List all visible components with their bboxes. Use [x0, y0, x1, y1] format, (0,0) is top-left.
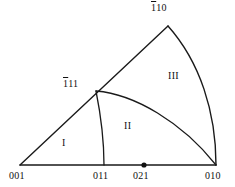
pole-label-1bar11-rest: 11 [68, 78, 78, 89]
data-point-021 [141, 162, 146, 167]
pole-label-1bar11: 111 [63, 79, 78, 89]
pole-label-1bar10-rest: 10 [156, 2, 166, 13]
axis-label-001: 001 [9, 171, 25, 181]
region-label-two: II [124, 121, 131, 131]
region-label-one: I [62, 138, 66, 148]
axis-label-010: 010 [205, 171, 221, 181]
region-label-three: III [168, 71, 179, 81]
stereographic-triangle-figure: 110 111 I II III 001 011 021 010 [0, 0, 235, 187]
edge-divider-1bar11-010 [96, 91, 216, 165]
edge-left-001-1bar10 [20, 26, 168, 165]
edge-arc-1bar10-010 [168, 26, 216, 165]
triangle-diagram-canvas [0, 0, 235, 187]
axis-label-021: 021 [133, 171, 149, 181]
axis-label-011: 011 [93, 171, 108, 181]
edge-divider-1bar11-011 [96, 91, 104, 165]
pole-label-1bar10: 110 [151, 3, 167, 13]
